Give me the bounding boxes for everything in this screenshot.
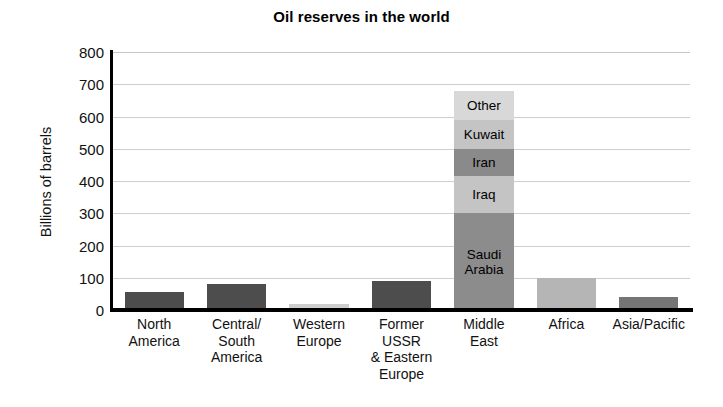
x-axis-category-label: Asia/Pacific — [608, 316, 690, 333]
y-axis-tick-labels: 8007006005004003002001000 — [52, 52, 104, 310]
x-axis-category-label: Middle East — [443, 316, 525, 349]
bar-segment[interactable]: Other — [454, 91, 513, 120]
x-axis-category-labels: North AmericaCentral/ South AmericaWeste… — [113, 316, 690, 404]
y-axis-tick-label: 0 — [56, 303, 104, 318]
bar-group[interactable] — [537, 52, 596, 310]
y-axis-tick-label: 200 — [56, 239, 104, 254]
x-axis-category-label: Western Europe — [278, 316, 360, 349]
x-axis-category-label: North America — [113, 316, 195, 349]
bar[interactable] — [537, 278, 596, 310]
y-axis-tick-label: 700 — [56, 77, 104, 92]
bar-segment[interactable]: Kuwait — [454, 120, 513, 149]
bar-segment[interactable]: Saudi Arabia — [454, 213, 513, 310]
bar-segment[interactable]: Iran — [454, 149, 513, 176]
y-axis-tick-label: 100 — [56, 271, 104, 286]
x-axis-line — [110, 308, 693, 312]
bar-group[interactable]: Saudi ArabiaIraqIranKuwaitOther — [454, 52, 513, 310]
y-axis-line — [110, 50, 113, 312]
bar-segment[interactable]: Iraq — [454, 176, 513, 213]
chart-container: Oil reserves in the world Billions of ba… — [0, 0, 723, 407]
bar[interactable] — [207, 284, 266, 310]
y-axis-tick-label: 300 — [56, 206, 104, 221]
bar-group[interactable] — [289, 52, 348, 310]
bar-group[interactable] — [207, 52, 266, 310]
y-axis-tick-label: 500 — [56, 142, 104, 157]
y-axis-tick-label: 600 — [56, 110, 104, 125]
plot-area: Saudi ArabiaIraqIranKuwaitOther — [113, 52, 690, 310]
x-axis-category-label: Former USSR & Eastern Europe — [360, 316, 442, 382]
chart-title: Oil reserves in the world — [0, 8, 723, 25]
x-axis-category-label: Africa — [525, 316, 607, 333]
bar[interactable] — [372, 281, 431, 310]
y-axis-tick-label: 400 — [56, 174, 104, 189]
bar-group[interactable] — [619, 52, 678, 310]
bar-group[interactable] — [372, 52, 431, 310]
x-axis-category-label: Central/ South America — [195, 316, 277, 366]
y-axis-tick-label: 800 — [56, 45, 104, 60]
bar-group[interactable] — [125, 52, 184, 310]
